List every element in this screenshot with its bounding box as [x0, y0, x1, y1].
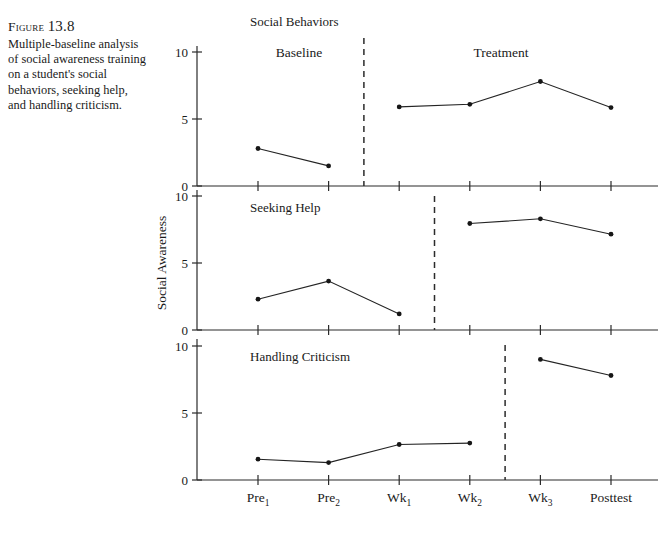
chart-canvas: 1050Social Behaviors1050Seeking Help1050…	[148, 0, 663, 538]
y-tick-label: 10	[175, 189, 188, 204]
y-tick-label: 0	[182, 323, 189, 338]
phase-label-group: BaselineTreatment	[276, 45, 529, 60]
x-tick-label: Posttest	[590, 490, 632, 505]
x-tick-label: Pre2	[317, 490, 340, 508]
figure-number: 13.8	[48, 18, 75, 34]
y-tick-label: 5	[182, 406, 189, 421]
data-point	[256, 297, 261, 302]
y-tick-label: 10	[175, 339, 188, 354]
data-point	[609, 105, 614, 110]
data-line-baseline	[258, 281, 399, 314]
data-point	[538, 79, 543, 84]
data-line-treatment	[540, 359, 611, 375]
data-point	[467, 441, 472, 446]
data-point	[397, 105, 402, 110]
data-point	[326, 279, 331, 284]
x-tick-label: Wk2	[458, 490, 483, 508]
panel-title: Seeking Help	[250, 200, 320, 215]
data-point	[256, 457, 261, 462]
data-point	[538, 216, 543, 221]
data-point	[609, 232, 614, 237]
y-tick-label: 0	[182, 473, 189, 488]
multiple-baseline-chart: 1050Social Behaviors1050Seeking Help1050…	[148, 0, 663, 538]
y-tick-label: 5	[182, 256, 189, 271]
phase-label-baseline: Baseline	[276, 45, 323, 60]
x-tick-label: Wk3	[528, 490, 553, 508]
x-tick-label: Wk1	[387, 490, 412, 508]
data-point	[538, 357, 543, 362]
y-axis-title: Social Awareness	[154, 216, 169, 310]
panel-title: Social Behaviors	[250, 14, 338, 29]
data-point	[397, 312, 402, 317]
data-line-baseline	[258, 443, 470, 463]
data-point	[609, 373, 614, 378]
data-point	[326, 460, 331, 465]
data-line-baseline	[258, 149, 329, 166]
panel-2: 1050Seeking Help	[175, 189, 658, 338]
panel-title: Handling Criticism	[250, 349, 350, 364]
data-line-treatment	[399, 82, 611, 108]
data-point	[467, 221, 472, 226]
data-point	[326, 164, 331, 169]
data-point	[467, 102, 472, 107]
x-tick-label: Pre1	[247, 490, 270, 508]
panel-1: 1050Social Behaviors	[175, 14, 658, 194]
figure-label: Figure 13.8	[8, 18, 148, 35]
y-tick-label: 10	[175, 45, 188, 60]
phase-label-treatment: Treatment	[473, 45, 528, 60]
figure-word: Figure	[8, 19, 44, 34]
figure-caption-text: Multiple-baseline analysis of social awa…	[8, 37, 148, 113]
y-tick-label: 5	[182, 112, 189, 127]
data-point	[397, 442, 402, 447]
x-tick-label-group: Pre1Pre2Wk1Wk2Wk3Posttest	[247, 490, 633, 508]
panel-3: 1050Handling Criticism	[175, 339, 658, 488]
figure-caption: Figure 13.8 Multiple-baseline analysis o…	[8, 18, 148, 113]
data-point	[256, 146, 261, 151]
